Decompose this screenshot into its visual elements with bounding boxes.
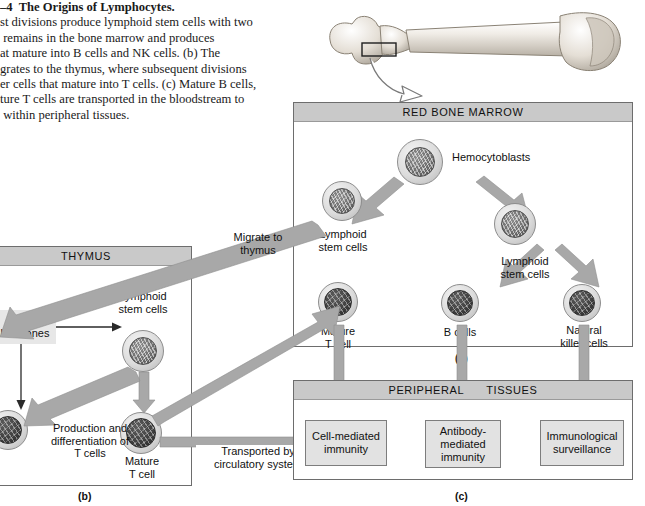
panel-a-title: RED BONE MARROW xyxy=(294,103,632,122)
cell-lymphoid-stem-right xyxy=(494,203,536,245)
box-antibody-mediated-immunity: Antibody- mediated immunity xyxy=(425,420,501,468)
caption-line-1: st divisions produce lymphoid stem cells… xyxy=(0,15,330,30)
caption-line-2: remains in the bone marrow and produces xyxy=(0,31,330,46)
label-migrate-to-thymus: Migrate to thymus xyxy=(208,231,308,256)
figure-caption: –4 The Origins of Lymphocytes. st divisi… xyxy=(0,0,330,123)
panel-c-title: PERIPHERAL TISSUES xyxy=(294,381,632,400)
caption-line-6: ture T cells are transported in the bloo… xyxy=(0,92,330,107)
panel-c-letter: (c) xyxy=(455,490,468,502)
cell-natural-killer-cells xyxy=(563,284,601,322)
arrow-production-differentiation xyxy=(20,372,140,428)
caption-line-7: within peripheral tissues. xyxy=(0,108,330,123)
panel-c-title-part2: TISSUES xyxy=(486,384,537,396)
label-lymphoid-stem-cells-right: Lymphoid stem cells xyxy=(484,255,566,280)
panel-c-title-part1: PERIPHERAL xyxy=(389,384,465,396)
caption-line-5: er cells that mature into T cells. (c) M… xyxy=(0,77,330,92)
caption-title: –4 The Origins of Lymphocytes. xyxy=(0,0,330,15)
cell-lymphoid-stem-left xyxy=(322,181,362,221)
label-hemocytoblasts: Hemocytoblasts xyxy=(452,151,562,164)
box-cell-mediated-immunity: Cell-mediated immunity xyxy=(305,420,387,466)
label-mature-t-cell-b: Mature T cell xyxy=(108,455,176,480)
cell-b-cells xyxy=(441,284,479,322)
femur-illustration xyxy=(318,2,638,102)
cell-hemocytoblast xyxy=(397,139,443,185)
panel-b-letter: (b) xyxy=(78,490,91,502)
caption-line-4: grates to the thymus, where subsequent d… xyxy=(0,62,330,77)
box-immunological-surveillance: Immunological surveillance xyxy=(540,420,624,466)
caption-line-3: at mature into B cells and NK cells. (b)… xyxy=(0,46,330,61)
